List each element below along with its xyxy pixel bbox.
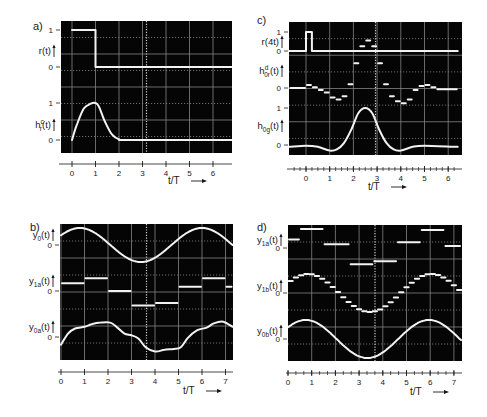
x-tick-label: 0 (304, 174, 309, 183)
x-tick-label: 1 (327, 174, 332, 183)
x-tick-label: 1 (93, 169, 98, 178)
x-tick-label: 3 (129, 377, 134, 386)
x-tick-label: 6 (446, 174, 451, 183)
ytick-label-zero: 0 (276, 335, 281, 344)
trace-label: r(t) (39, 45, 51, 56)
x-tick-label: 0 (70, 169, 75, 178)
y-arrowhead-icon (280, 65, 283, 69)
x-tick-label: 0 (59, 377, 64, 386)
ytick-label-zero: 0 (48, 287, 53, 296)
x-axis-label: t/T (368, 181, 380, 192)
y-arrowhead-icon (51, 275, 54, 279)
trace-label-tail: (t) (269, 280, 278, 291)
x-tick-label: 5 (422, 174, 427, 183)
ytick-label-zero: 0 (277, 47, 282, 56)
x-tick-label: 5 (187, 169, 192, 178)
ytick-label-one: 1 (49, 26, 54, 35)
trace-label: h0g(t) (258, 120, 280, 134)
x-tick-label: 4 (399, 174, 404, 183)
trace-label-tail: (t) (269, 325, 278, 336)
ytick-label-zero: 0 (48, 241, 53, 250)
y-arrowhead-icon (52, 45, 55, 49)
ytick-label-zero: 0 (277, 141, 282, 150)
x-tick-label: 7 (452, 378, 457, 387)
ytick-label-zero: 0 (49, 136, 54, 145)
x-tick-label: 2 (333, 378, 338, 387)
panel-label: b) (30, 221, 40, 233)
y-arrowhead-icon (279, 325, 282, 329)
x-arrowhead-icon (202, 179, 207, 183)
x-tick-label: 2 (106, 377, 111, 386)
ytick-label-one: 1 (277, 104, 282, 113)
trace-label-base: r(t) (39, 45, 51, 56)
ytick-label-one: 1 (49, 99, 54, 108)
x-tick-label: 1 (82, 377, 87, 386)
y-arrowhead-icon (279, 280, 282, 284)
trace-label-tail: (t) (41, 229, 50, 240)
panel-a: 01r(t)01hcr(t)a)0123456t/T (33, 20, 232, 186)
trace-label-tail: (t) (270, 120, 279, 131)
trace-label-tail: (t) (41, 321, 50, 332)
x-tick-label: 3 (357, 378, 362, 387)
ytick-label-zero: 0 (49, 63, 54, 72)
x-tick-label: 6 (200, 377, 205, 386)
x-arrowhead-icon (217, 389, 222, 393)
x-tick-label: 6 (211, 169, 216, 178)
x-tick-label: 4 (381, 378, 386, 387)
trace-label: hd0r(t) (259, 64, 279, 78)
ytick-label-zero: 0 (277, 84, 282, 93)
x-arrowhead-icon (444, 390, 449, 394)
trace-label-tail: (t) (270, 65, 279, 76)
x-tick-label: 1 (309, 378, 314, 387)
x-tick-label: 2 (351, 174, 356, 183)
x-tick-label: 3 (140, 169, 145, 178)
y-arrowhead-icon (280, 120, 283, 124)
y-arrowhead-icon (51, 229, 54, 233)
x-tick-label: 7 (223, 377, 228, 386)
trace-label: hcr(t) (35, 118, 51, 132)
y-arrowhead-icon (52, 119, 55, 123)
x-tick-label: 0 (286, 378, 291, 387)
x-tick-label: 4 (153, 377, 158, 386)
panel-d: 0y1a(t)0y1b(t)0y0b(t)d)01234567t/T (257, 221, 462, 397)
trace-label-sup: d (265, 64, 269, 71)
x-axis-label: t/T (410, 386, 422, 397)
trace-label: r(4t) (262, 36, 279, 47)
ytick-label-zero: 0 (276, 244, 281, 253)
x-arrowhead-icon (402, 185, 407, 189)
trace-label-tail: (t) (269, 234, 278, 245)
panel-b: 0y0(t)0y1a(t)0y0a(t)b)01234567t/T (29, 221, 233, 396)
trace-label-base: r(4t) (262, 36, 279, 47)
x-tick-label: 6 (428, 378, 433, 387)
figure: 01r(t)01hcr(t)a)0123456t/T0y0(t)0y1a(t)0… (0, 0, 487, 417)
panel-label: d) (257, 221, 267, 233)
x-tick-label: 5 (404, 378, 409, 387)
ytick-label-zero: 0 (48, 333, 53, 342)
panel-label: c) (257, 14, 266, 26)
oscilloscope-figure: 01r(t)01hcr(t)a)0123456t/T0y0(t)0y1a(t)0… (0, 0, 487, 417)
x-tick-label: 2 (117, 169, 122, 178)
x-tick-label: 5 (176, 377, 181, 386)
x-axis-label: t/T (183, 385, 195, 396)
y-arrowhead-icon (51, 321, 54, 325)
trace-label-tail: (t) (41, 275, 50, 286)
x-axis-label: t/T (168, 175, 180, 186)
panel-c: 01r(4t)0hd0r(t)01h0g(t)c)0123456t/T (257, 14, 462, 192)
y-arrowhead-icon (279, 234, 282, 238)
panel-label: a) (33, 20, 43, 32)
trace-label-tail: (t) (42, 119, 51, 130)
